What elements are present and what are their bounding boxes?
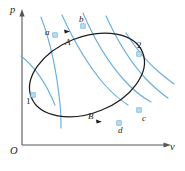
state-point-marker-1 [31,93,35,97]
figure-caption-strip [0,160,185,171]
state-point-label-a: a [45,28,50,37]
pressure-axis-arrowhead [19,9,24,17]
direction-arrow-lower [96,120,102,124]
axes-group [19,9,171,148]
volume-axis-label: v [170,142,175,153]
pv-cycle-figure: p v O 12abcdAB [0,0,185,171]
state-point-marker-a [53,33,57,37]
thermodynamic-cycle-path [17,17,157,132]
state-point-marker-b [81,24,85,28]
isotherm-curve-3 [62,15,128,105]
pressure-axis-label: p [10,5,15,16]
state-point-marker-c [137,108,141,112]
state-point-label-b: b [79,15,84,24]
isotherm-curve-4 [83,13,151,102]
state-point-label-d: d [118,126,123,135]
origin-label: O [10,146,18,157]
state-point-label-2: 2 [137,41,142,50]
process-label-A: A [65,38,71,47]
state-point-marker-2 [137,52,141,56]
state-point-label-1: 1 [26,97,31,106]
state-point-label-c: c [142,114,146,123]
state-point-markers-group [31,24,141,125]
process-label-B: B [88,112,94,121]
cycle-ellipse [17,17,157,132]
isotherm-curve-5 [106,16,168,98]
figure-canvas [0,0,185,171]
